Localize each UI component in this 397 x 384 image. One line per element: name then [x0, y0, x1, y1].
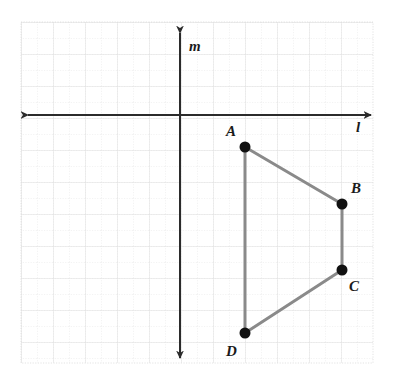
vertex-point-a [240, 142, 251, 153]
vertex-label-c: C [349, 278, 360, 294]
vertex-label-a: A [225, 123, 236, 139]
vertex-point-b [337, 199, 348, 210]
geometry-figure-container: l m A B C D [0, 0, 397, 384]
vertex-point-c [337, 265, 348, 276]
vertex-label-b: B [350, 180, 361, 196]
coordinate-grid-diagram: l m A B C D [0, 0, 397, 384]
vertex-label-d: D [225, 343, 237, 359]
vertex-point-d [240, 328, 251, 339]
axis-label-m: m [189, 38, 201, 54]
